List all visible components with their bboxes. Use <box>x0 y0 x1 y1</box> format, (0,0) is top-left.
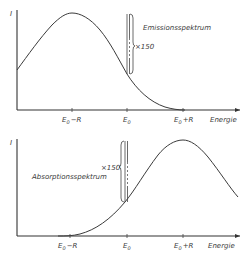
y-axis-label: I <box>10 139 12 147</box>
scale-label: ×150 <box>135 43 155 51</box>
emission-panel: I E0−R E0 E0+R Energie ×150 Emissionsspe… <box>10 10 240 125</box>
scale-label: ×150 <box>101 164 121 172</box>
tick-label-e0: E0 <box>123 116 131 125</box>
tick-label-e0-plus-r: E0+R <box>174 116 193 125</box>
tick-label-e0-plus-r: E0+R <box>174 242 193 251</box>
spectrum-label: Absorptionsspektrum <box>31 173 107 181</box>
tick-label-e0: E0 <box>123 242 131 251</box>
spectrum-label: Emissionsspektrum <box>143 24 211 32</box>
tick-label-e0-minus-r: E0−R <box>58 242 77 251</box>
absorption-panel: I E0−R E0 E0+R Energie ×150 Absorptionss… <box>10 139 240 251</box>
x-axis-label: Energie <box>208 242 235 250</box>
y-axis-label: I <box>10 10 12 18</box>
x-axis-label: Energie <box>210 116 237 124</box>
tick-label-e0-minus-r: E0−R <box>62 116 81 125</box>
absorption-curve <box>58 140 238 236</box>
spectra-diagram: I E0−R E0 E0+R Energie ×150 Emissionsspe… <box>0 0 250 257</box>
